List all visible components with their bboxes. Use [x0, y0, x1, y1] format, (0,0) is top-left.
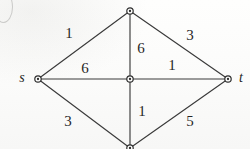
edge-top-t-weight: 3 [186, 28, 194, 43]
terminal-label-t: t [239, 71, 243, 85]
edge-s-bottom [38, 79, 130, 148]
terminal-label-s: s [19, 71, 24, 85]
edge-bottom-t-weight: 5 [186, 114, 194, 129]
node-center [127, 76, 133, 82]
edge-s-center-weight: 6 [81, 61, 89, 76]
edge-s-top-weight: 1 [65, 26, 73, 41]
node-t [225, 76, 231, 82]
edge-center-bottom-weight: 1 [138, 104, 146, 119]
node-center-dot [129, 78, 131, 80]
graph-diagram-figure: 13661135 st [0, 0, 250, 149]
node-s-dot [37, 78, 39, 80]
graph-canvas [0, 0, 250, 149]
node-bottom [127, 145, 133, 149]
edge-top-center-weight: 6 [137, 41, 145, 56]
node-t-dot [227, 78, 229, 80]
node-s [35, 76, 41, 82]
edge-s-bottom-weight: 3 [64, 114, 72, 129]
node-top-dot [129, 10, 131, 12]
edge-center-t-weight: 1 [168, 58, 176, 73]
node-top [127, 8, 133, 14]
